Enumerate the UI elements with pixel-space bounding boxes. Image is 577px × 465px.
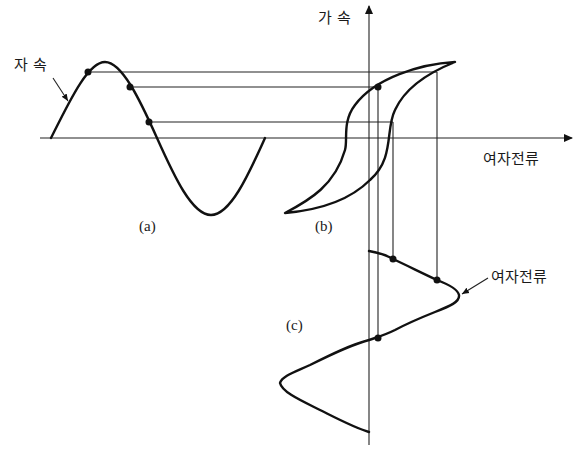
current-curve-label: 여자전류 (491, 268, 547, 286)
panel-label-c: (c) (286, 317, 303, 334)
current-point-2 (434, 277, 441, 284)
hysteresis-exciting-current-diagram: 자 속 가 속 여자전류 여자전류 (a) (b) (c) (0, 0, 577, 465)
flux-point-3 (146, 119, 153, 126)
flux-label-left: 자 속 (14, 56, 47, 74)
panel-label-b: (b) (315, 218, 333, 235)
current-point-1 (390, 256, 397, 263)
current-point-3 (375, 335, 382, 342)
current-leader-arrow (462, 278, 488, 294)
flux-axis-label: 가 속 (318, 9, 351, 27)
flux-point-1 (85, 69, 92, 76)
loop-point (375, 84, 382, 91)
flux-point-2 (127, 84, 134, 91)
flux-leader-arrow (53, 78, 68, 101)
current-axis-label: 여자전류 (483, 150, 539, 168)
panel-label-a: (a) (139, 218, 156, 235)
